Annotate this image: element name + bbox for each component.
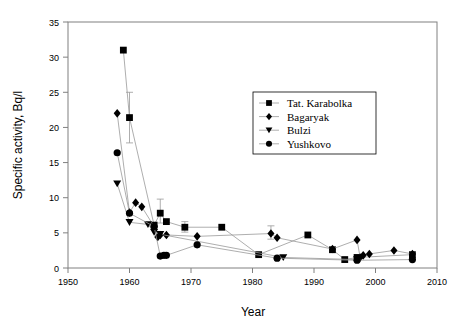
specific-activity-scatter-chart: 1950196019701980199020002010051015202530… [0,0,459,328]
y-tick-label: 20 [49,123,59,133]
marker-square [157,210,164,217]
y-tick-label: 25 [49,88,59,98]
x-tick-label: 1990 [304,277,324,287]
chart-legend: Tat. KarabolkaBagaryakBulziYushkovo [253,92,376,154]
marker-circle [194,241,201,248]
legend-label: Yushkovo [287,138,332,150]
marker-square [218,224,225,231]
x-tick-label: 1950 [58,277,78,287]
marker-square [163,218,170,225]
y-axis-title: Specific activity, Bq/l [11,91,25,199]
x-axis-title: Year [241,305,265,319]
marker-circle [409,256,416,263]
x-tick-label: 2000 [365,277,385,287]
x-tick-label: 2010 [427,277,447,287]
marker-square [126,114,133,121]
y-tick-label: 15 [49,158,59,168]
marker-circle [163,252,170,259]
marker-square [181,224,188,231]
chart-figure: 1950196019701980199020002010051015202530… [0,0,459,328]
marker-square [304,232,311,239]
marker-circle [266,141,272,147]
legend-label: Tat. Karabolka [287,97,352,109]
marker-circle [274,255,281,262]
x-tick-label: 1960 [119,277,139,287]
y-tick-label: 30 [49,53,59,63]
x-tick-label: 1970 [181,277,201,287]
y-tick-label: 10 [49,193,59,203]
y-tick-label: 35 [49,18,59,28]
marker-circle [151,223,158,230]
marker-circle [126,210,133,217]
x-tick-label: 1980 [242,277,262,287]
marker-circle [114,149,121,156]
marker-circle [353,257,360,264]
marker-square [266,100,272,106]
marker-square [120,47,127,54]
legend-label: Bulzi [287,124,311,136]
legend-label: Bagaryak [287,111,330,123]
y-tick-label: 5 [54,228,59,238]
y-tick-label: 0 [54,264,59,274]
